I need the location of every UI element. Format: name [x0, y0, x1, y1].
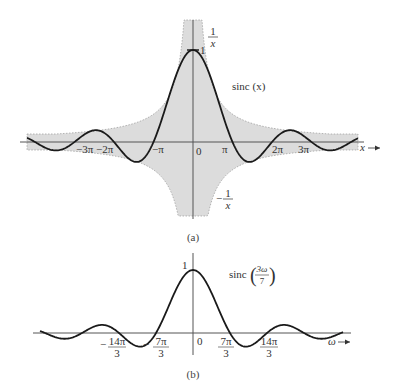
curve-label-b: sinc ( 3ω 7 )	[229, 264, 276, 287]
envelope-lower-label: − 1 x	[216, 187, 233, 211]
tick-label-neg3pi: −3π	[76, 143, 94, 155]
tick-label-7pi3: 7π 3	[218, 335, 234, 359]
tick-label-negpi: −π	[152, 143, 164, 155]
svg-text:3: 3	[223, 347, 229, 359]
envelope-upper-label: 1 x	[208, 25, 218, 49]
svg-text:x: x	[359, 141, 365, 153]
tick-label-neg2pi: −2π	[96, 143, 114, 155]
svg-text:1: 1	[210, 25, 216, 37]
tick-label-3pi: 3π	[298, 143, 310, 155]
origin-label-b: 0	[197, 335, 203, 347]
panel-b: 1 0 sinc ( 3ω 7 ) − 14π 3 − 7π 3 7π 3	[33, 253, 351, 381]
tick-label-neg14pi3: − 14π 3	[100, 335, 126, 359]
svg-text:1: 1	[225, 187, 231, 199]
peak-label-b: 1	[182, 259, 188, 271]
svg-text:−: −	[143, 338, 149, 350]
svg-text:−: −	[100, 338, 106, 350]
svg-text:3: 3	[266, 347, 272, 359]
svg-text:): )	[269, 264, 276, 287]
svg-text:sinc: sinc	[229, 268, 247, 280]
sinc-curve-b	[40, 270, 343, 347]
svg-text:14π: 14π	[261, 335, 278, 347]
svg-text:x: x	[210, 37, 216, 49]
svg-text:3: 3	[158, 347, 164, 359]
caption-b: (b)	[187, 368, 200, 381]
svg-text:14π: 14π	[109, 335, 126, 347]
svg-text:7: 7	[260, 276, 265, 286]
sinc-figure: 1 0 sinc (x) 1 x − 1 x −3π −2π −π π 2π 3…	[0, 0, 393, 387]
svg-text:7π: 7π	[220, 335, 232, 347]
origin-label-a: 0	[196, 145, 202, 157]
x-axis-label-a: x	[359, 141, 380, 153]
tick-label-14pi3: 14π 3	[260, 335, 278, 359]
svg-text:x: x	[225, 199, 231, 211]
svg-text:3ω: 3ω	[256, 264, 268, 274]
svg-text:7π: 7π	[155, 335, 167, 347]
caption-a: (a)	[187, 231, 200, 244]
curve-label-a: sinc (x)	[232, 80, 266, 93]
tick-label-pi: π	[222, 143, 228, 155]
svg-text:−: −	[216, 192, 222, 204]
x-axis-label-b: ω	[328, 335, 350, 347]
svg-text:3: 3	[114, 347, 120, 359]
peak-label-a: 1	[200, 44, 206, 56]
svg-text:ω: ω	[328, 335, 336, 347]
tick-label-2pi: 2π	[272, 143, 284, 155]
panel-a: 1 0 sinc (x) 1 x − 1 x −3π −2π −π π 2π 3…	[20, 20, 380, 244]
tick-label-neg7pi3: − 7π 3	[143, 335, 169, 359]
